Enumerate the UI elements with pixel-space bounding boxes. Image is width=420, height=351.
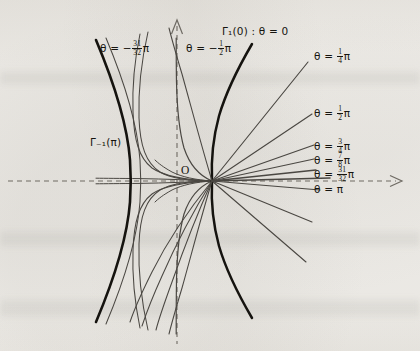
theta-tail: π	[344, 50, 351, 62]
label-theta-quarter-pi: θ = 14π	[314, 48, 350, 64]
theta-tail: π	[143, 42, 150, 54]
gamma-minus1-text: Γ₋₁(π)	[90, 136, 121, 148]
fraction-31-32: 3132	[337, 166, 347, 182]
theta-lead: θ =	[314, 168, 337, 180]
fraction-1-2: 12	[337, 105, 343, 121]
gamma-1-text: Γ₁(0) : θ = 0	[222, 25, 288, 37]
curve-lower-a	[169, 181, 212, 334]
theta-lead: θ = −	[186, 42, 218, 54]
curve-gamma-1-theta-0-mirror	[212, 181, 252, 318]
fraction-1-2: 12	[218, 40, 224, 56]
theta-lead: θ =	[314, 50, 337, 62]
ray-theta-half-pi	[212, 114, 312, 181]
theta-tail: π	[344, 154, 351, 166]
ray-mirror-half-pi	[212, 181, 312, 222]
theta-lead: θ =	[314, 154, 337, 166]
label-gamma-minus1-pi: Γ₋₁(π)	[90, 136, 121, 149]
label-theta-pi: θ = π	[314, 184, 343, 196]
right-ray-fan-lower	[212, 181, 320, 262]
theta-lead: θ =	[314, 140, 337, 152]
theta-tail: π	[225, 42, 232, 54]
theta-lead: θ = −	[100, 42, 132, 54]
origin-label: O	[181, 164, 189, 176]
label-theta-minus-31-32-pi: θ = −3132π	[100, 40, 149, 56]
fraction-1-4: 14	[337, 48, 343, 64]
label-theta-31-32-pi: θ = 3132π	[314, 166, 354, 182]
lower-curve-fan	[130, 181, 212, 334]
theta-tail: π	[348, 168, 355, 180]
right-ray-fan-upper	[212, 62, 330, 181]
ray-mirror-31-32-pi	[212, 181, 320, 190]
fraction-31-32: 3132	[132, 40, 142, 56]
curve-lower-b	[156, 181, 212, 330]
curve-left-d	[139, 181, 212, 330]
curve-left-c	[133, 181, 212, 328]
label-theta-minus-half-pi: θ = −12π	[186, 40, 231, 56]
theta-tail: π	[344, 107, 351, 119]
ray-mirror-quarter-pi	[212, 181, 306, 262]
curve-gamma-1-theta-0	[212, 44, 252, 181]
curve-theta-minus-half-pi	[176, 38, 212, 181]
label-theta-half-pi: θ = 12π	[314, 105, 350, 121]
theta-pi-text: θ = π	[314, 183, 343, 195]
theta-lead: θ =	[314, 107, 337, 119]
theta-tail: π	[344, 140, 351, 152]
label-gamma-1-theta-0: Γ₁(0) : θ = 0	[222, 26, 288, 38]
